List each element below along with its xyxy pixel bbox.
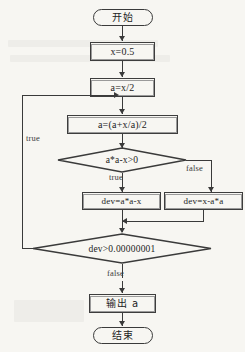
edge-label-tol-false: false <box>107 268 124 278</box>
connector-sign-false-horizontal <box>186 160 212 161</box>
node-init-a-label: a=x/2 <box>91 80 154 96</box>
arrowhead-start-to-initx <box>119 36 125 41</box>
connector-tol-true-to-loopback <box>22 248 34 249</box>
node-start-label: 开始 <box>112 13 134 23</box>
node-dev-negative: dev=x-a*a <box>164 192 243 210</box>
connector-loopback-horizontal <box>22 95 116 96</box>
node-output-label: 输出 a <box>90 296 155 312</box>
node-dev-negative-label: dev=x-a*a <box>165 194 242 209</box>
node-iterate: a=(a+x/a)/2 <box>67 115 178 134</box>
node-end: 结束 <box>93 327 153 344</box>
node-end-label: 结束 <box>112 331 134 341</box>
arrowhead-output-to-end <box>119 321 125 326</box>
edge-label-sign-false: false <box>186 163 203 173</box>
node-start: 开始 <box>93 9 153 26</box>
node-dev-positive: dev=a*a-x <box>82 192 161 210</box>
node-decision-sign-label: a*a-x>0 <box>106 155 139 165</box>
arrowhead-dev-merge <box>122 218 127 224</box>
connector-loopback-vertical <box>22 95 23 249</box>
arrowhead-initx-to-inita <box>119 72 125 77</box>
edge-label-sign-true: true <box>109 172 123 182</box>
arrowhead-tol-false <box>119 288 125 293</box>
node-dev-positive-label: dev=a*a-x <box>83 194 160 209</box>
node-decision-tolerance-label: dev>0.00000001 <box>89 244 156 254</box>
scan-artifact <box>14 300 84 322</box>
arrowhead-inita-to-iterate <box>119 109 125 114</box>
edge-label-loop-true: true <box>26 133 40 143</box>
node-decision-sign: a*a-x>0 <box>57 147 187 173</box>
node-init-x-label: x=0.5 <box>91 44 154 60</box>
connector-dev-merge-horizontal <box>122 221 204 222</box>
node-output: 输出 a <box>89 294 156 313</box>
node-decision-tolerance: dev>0.00000001 <box>32 233 212 264</box>
node-init-x: x=0.5 <box>90 42 155 61</box>
flowchart-canvas: 开始 x=0.5 a=x/2 true a=(a+x/a)/2 a*a-x>0 … <box>0 0 245 352</box>
node-iterate-label: a=(a+x/a)/2 <box>68 117 177 133</box>
arrowhead-loopback-merge <box>114 92 119 98</box>
